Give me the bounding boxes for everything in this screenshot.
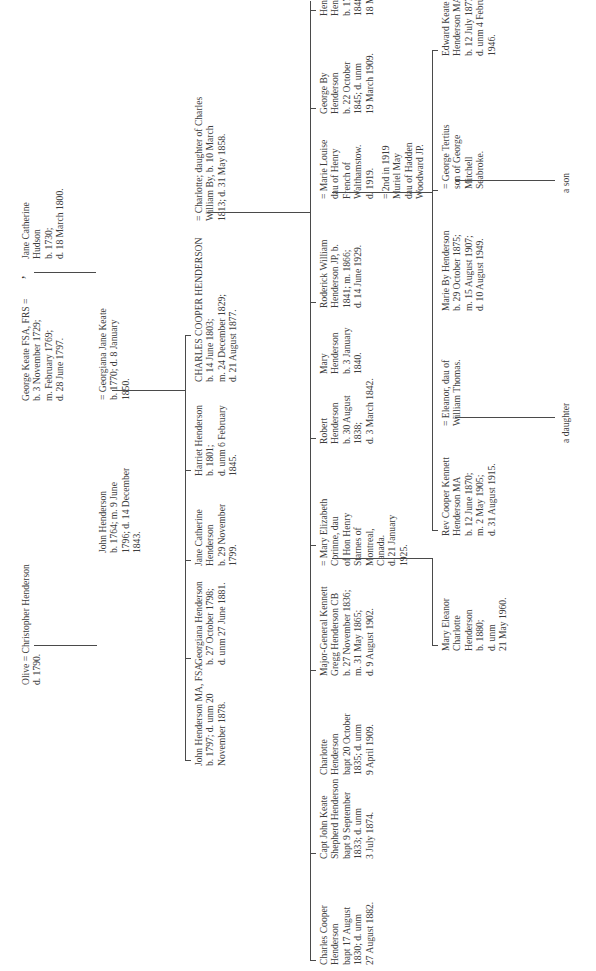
node-marie-by-henderson: Marie By Henderson b. 29 October 1875; m… — [440, 231, 486, 311]
node-a-daughter: a daughter — [560, 403, 571, 443]
descent-line-roderick — [332, 192, 432, 193]
family-tree-diagram: Olive = Christopher Henderson d. 1790. G… — [0, 0, 596, 971]
node-christopher-henderson: Olive = Christopher Henderson d. 1790. — [20, 564, 43, 685]
tick — [185, 335, 191, 336]
descent-line-kennett — [332, 558, 432, 559]
node-kennett-gregg-henderson: Major-General Kennett Gregg Henderson CB… — [318, 586, 375, 676]
descent-line-marie-by — [455, 180, 555, 181]
node-marie-louise-french: = Marie Louise dau of Henry French of Wa… — [318, 140, 375, 199]
tick — [432, 645, 438, 646]
node-mary-eleanor-charlotte-henderson: Mary Eleanor Charlotte Henderson b. 1880… — [440, 597, 508, 651]
node-capt-john-keate-shepherd-henderson: Capt John Keate Shepherd Henderson bapt … — [318, 779, 375, 859]
tick — [310, 960, 316, 961]
tick — [432, 50, 438, 51]
connector — [96, 645, 97, 646]
tick — [185, 760, 191, 761]
node-charlotte-by: = Charlotte; daughter of Charles William… — [193, 97, 227, 221]
node-edward-keate-henderson: Edward Keate Henderson MA b. 12 July 187… — [440, 0, 497, 56]
node-roderick-william-henderson: Roderick William Henderson JP, b. 1841; … — [318, 240, 364, 308]
tick — [310, 302, 316, 303]
node-eleanor-thomas: = Eleanor, dau of William Thomas. — [440, 359, 463, 426]
node-robert-henderson-1838: Robert Henderson b. 30 August 1838; d. 3… — [318, 378, 375, 444]
tick — [185, 470, 191, 471]
node-charles-cooper-henderson-1830: Charles Cooper Henderson bapt 17 August … — [318, 902, 375, 965]
tick — [310, 670, 316, 671]
node-john-henderson-1764: John Henderson b. 1764; m. 9 June 1796; … — [97, 468, 143, 553]
descent-line-christopher — [34, 645, 96, 646]
node-george-by-henderson: George By Henderson b. 22 October 1845; … — [318, 53, 375, 114]
tick — [185, 560, 191, 561]
child-bar-kennett — [432, 558, 433, 646]
tick — [310, 853, 316, 854]
child-bar-roderick — [432, 51, 433, 531]
node-mary-elizabeth-corinne: = Mary Elizabeth Corinne, dau of Hon Hen… — [318, 499, 409, 566]
node-mary-henderson-1840: Mary Henderson b. 3 January 1840. — [318, 327, 364, 374]
descent-line-gen2 — [112, 390, 185, 391]
tick — [185, 658, 191, 659]
node-charlotte-henderson-1835: Charlotte Henderson bapt 20 October 1835… — [318, 713, 375, 775]
node-a-son: a son — [560, 173, 571, 193]
descent-line-keate — [34, 272, 96, 273]
node-georgiana-henderson-1798: Georgiana Henderson b. 27 October 1798; … — [193, 581, 227, 665]
tick — [432, 190, 438, 191]
sibling-bar-gen3 — [185, 336, 186, 761]
sibling-bar-gen4 — [310, 1, 311, 961]
tick — [310, 10, 316, 11]
tick — [310, 545, 316, 546]
node-jane-catherine-hudson: Jane Catherine Hudson b. 1730; d. 18 Mar… — [20, 188, 66, 259]
node-georgiana-jane-keate: = Georgiana Jane Keate b. 1770; d. 8 Jan… — [97, 308, 131, 400]
node-henry-cooper-henderson: Henry Cooper Henderson b. 17 April 1848;… — [318, 0, 375, 16]
tick — [432, 530, 438, 531]
descent-line-cooper-kennett — [455, 417, 555, 418]
node-charles-cooper-henderson-1803: CHARLES COOPER HENDERSON b. 14 June 1803… — [193, 238, 239, 382]
tick — [310, 108, 316, 109]
tick — [310, 438, 316, 439]
node-muriel-may-woodward: = 2nd in 1919 Muriel May dau of Hadden W… — [380, 143, 426, 199]
node-george-keate: George Keate FSA, FRS = b. 3 November 17… — [20, 298, 66, 401]
node-jane-catherine-henderson-1799: Jane Catherine Henderson b. 29 November … — [193, 504, 239, 566]
descent-line-gen3 — [207, 212, 310, 213]
ink-mark-icon: , — [12, 276, 28, 280]
node-rev-cooper-kennett-henderson: Rev Cooper Kennett Henderson MA b. 12 Ju… — [440, 457, 497, 536]
node-harriet-henderson-1801: Harriet Henderson b. 1801; d. unm 6 Febr… — [193, 405, 239, 476]
node-john-henderson-1797: John Henderson MA, FSA b. 1797; d. unm 2… — [193, 664, 227, 766]
